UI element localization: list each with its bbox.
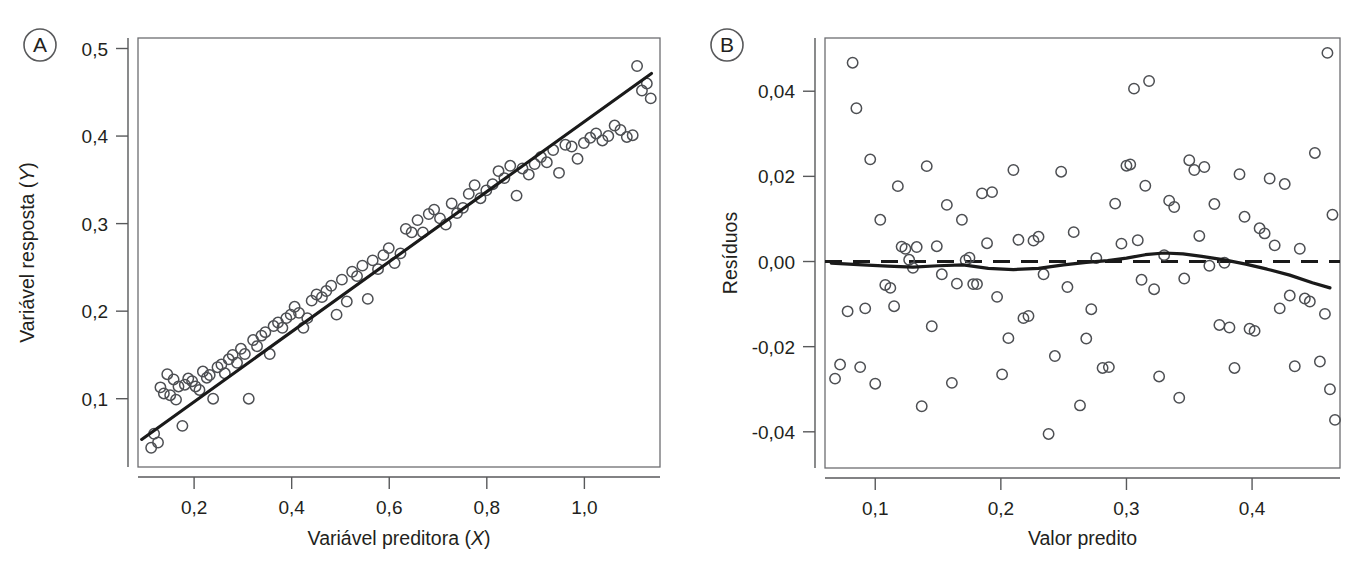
data-point bbox=[1056, 166, 1066, 176]
data-point bbox=[155, 382, 165, 392]
data-point bbox=[554, 168, 564, 178]
data-point bbox=[1116, 238, 1126, 248]
panel-a-xaxis-title: Variável preditora (X) bbox=[308, 527, 491, 549]
data-point bbox=[384, 243, 394, 253]
data-point bbox=[870, 379, 880, 389]
panel-a-xtick-label: 0,6 bbox=[376, 497, 402, 518]
data-point bbox=[1194, 231, 1204, 241]
data-point bbox=[1239, 212, 1249, 222]
data-point bbox=[627, 130, 637, 140]
data-point bbox=[875, 215, 885, 225]
data-point bbox=[900, 244, 910, 254]
data-point bbox=[1110, 198, 1120, 208]
data-point bbox=[412, 215, 422, 225]
data-point bbox=[860, 303, 870, 313]
data-point bbox=[378, 250, 388, 260]
panel-a-badge: A bbox=[24, 29, 56, 61]
data-point bbox=[1234, 169, 1244, 179]
panel-a-xtick-label: 0,4 bbox=[278, 497, 305, 518]
data-point bbox=[572, 154, 582, 164]
data-point bbox=[493, 166, 503, 176]
data-point bbox=[1310, 148, 1320, 158]
data-point bbox=[1280, 179, 1290, 189]
panel-b-ytick-label: 0,00 bbox=[758, 252, 795, 273]
panel-a-axes: 0,20,40,60,81,00,10,20,30,40,5 bbox=[82, 38, 660, 518]
data-point bbox=[1050, 351, 1060, 361]
data-point bbox=[1295, 244, 1305, 254]
data-point bbox=[992, 292, 1002, 302]
data-point bbox=[1038, 269, 1048, 279]
panel-b-ytick-label: 0,04 bbox=[758, 81, 795, 102]
data-point bbox=[917, 401, 927, 411]
data-point bbox=[927, 321, 937, 331]
data-point bbox=[1003, 333, 1013, 343]
data-point bbox=[842, 306, 852, 316]
panel-a-svg: A 0,20,40,60,81,00,10,20,30,40,5 Variáve… bbox=[0, 0, 690, 578]
figure-container: A 0,20,40,60,81,00,10,20,30,40,5 Variáve… bbox=[0, 0, 1361, 578]
data-point bbox=[337, 274, 347, 284]
data-point bbox=[357, 260, 367, 270]
data-point bbox=[1189, 165, 1199, 175]
data-point bbox=[505, 161, 515, 171]
data-point bbox=[1322, 48, 1332, 58]
data-point bbox=[987, 187, 997, 197]
data-point bbox=[1179, 273, 1189, 283]
data-point bbox=[1129, 83, 1139, 93]
data-point bbox=[1204, 261, 1214, 271]
data-point bbox=[1136, 275, 1146, 285]
panel-b-svg: B 0,10,20,30,4-0,04-0,020,000,020,04 Val… bbox=[671, 0, 1361, 578]
data-point bbox=[932, 241, 942, 251]
panel-a-yaxis-title: Variável resposta (Y) bbox=[16, 162, 38, 343]
data-point bbox=[1140, 181, 1150, 191]
data-point bbox=[847, 57, 857, 67]
panel-b-xtick-label: 0,4 bbox=[1239, 498, 1266, 519]
data-point bbox=[865, 154, 875, 164]
panel-a-points bbox=[146, 61, 656, 453]
data-point bbox=[957, 215, 967, 225]
data-point bbox=[146, 443, 156, 453]
data-point bbox=[851, 103, 861, 113]
panel-a-regression-line bbox=[142, 73, 652, 439]
data-point bbox=[1285, 290, 1295, 300]
data-point bbox=[982, 238, 992, 248]
data-point bbox=[1086, 304, 1096, 314]
data-point bbox=[1209, 199, 1219, 209]
data-point bbox=[560, 140, 570, 150]
data-point bbox=[524, 169, 534, 179]
data-point bbox=[363, 294, 373, 304]
data-point bbox=[889, 301, 899, 311]
panel-a-ytick-label: 0,4 bbox=[82, 126, 109, 147]
data-point bbox=[632, 61, 642, 71]
panel-a-ytick-label: 0,3 bbox=[82, 214, 108, 235]
data-point bbox=[1008, 165, 1018, 175]
panel-b-ytick-label: -0,04 bbox=[752, 422, 796, 443]
data-point bbox=[1327, 209, 1337, 219]
data-point bbox=[1320, 309, 1330, 319]
panel-b-xtick-label: 0,2 bbox=[988, 498, 1014, 519]
data-point bbox=[244, 394, 254, 404]
data-point bbox=[1104, 362, 1114, 372]
data-point bbox=[1275, 303, 1285, 313]
data-point bbox=[1290, 361, 1300, 371]
data-point bbox=[331, 309, 341, 319]
data-point bbox=[1269, 240, 1279, 250]
data-point bbox=[977, 188, 987, 198]
panel-b-xtick-label: 0,3 bbox=[1113, 498, 1139, 519]
data-point bbox=[942, 200, 952, 210]
data-point bbox=[997, 369, 1007, 379]
data-point bbox=[1315, 356, 1325, 366]
panel-b-xaxis-title: Valor predito bbox=[1028, 527, 1137, 549]
panel-a-xtick-label: 1,0 bbox=[571, 497, 597, 518]
data-point bbox=[1325, 384, 1335, 394]
data-point bbox=[1174, 393, 1184, 403]
data-point bbox=[893, 181, 903, 191]
panel-b-loess-curve bbox=[831, 253, 1330, 288]
panel-a-ytick-label: 0,5 bbox=[82, 39, 108, 60]
data-point bbox=[1149, 284, 1159, 294]
data-point bbox=[855, 362, 865, 372]
data-point bbox=[208, 394, 218, 404]
data-point bbox=[177, 421, 187, 431]
panel-a-xtick-label: 0,2 bbox=[181, 497, 207, 518]
data-point bbox=[1013, 235, 1023, 245]
data-point bbox=[1133, 235, 1143, 245]
